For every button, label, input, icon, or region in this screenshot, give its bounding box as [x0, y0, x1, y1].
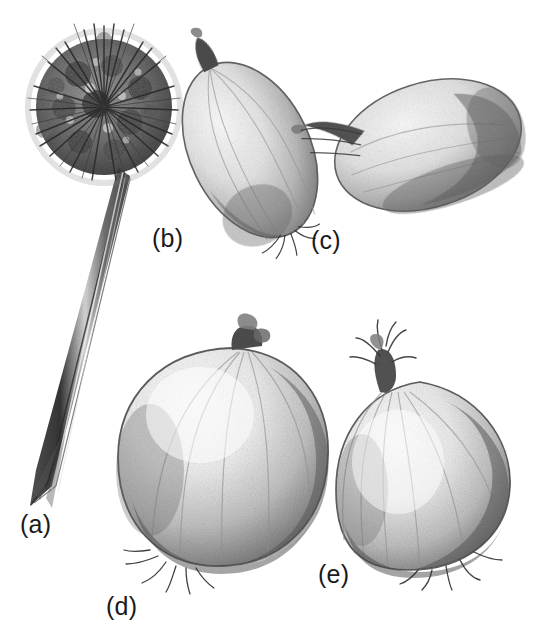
- figure-label-e: (e): [318, 562, 349, 587]
- figure-e-bulb: [336, 320, 510, 590]
- figure-label-a: (a): [20, 512, 51, 537]
- figure-label-c: (c): [311, 228, 341, 253]
- illustration-canvas: [0, 0, 548, 635]
- botanical-plate: (a) (b) (c) (d) (e): [0, 0, 548, 635]
- figure-label-b: (b): [152, 226, 183, 251]
- figure-d-neck: [232, 314, 271, 350]
- figure-label-d: (d): [106, 594, 137, 619]
- figure-a-umbel-head: [28, 24, 180, 183]
- figure-c-bulb: [290, 56, 542, 246]
- figure-a-scape: [30, 168, 130, 508]
- figure-d-bulb: [116, 314, 329, 594]
- figure-e-neck: [350, 320, 416, 393]
